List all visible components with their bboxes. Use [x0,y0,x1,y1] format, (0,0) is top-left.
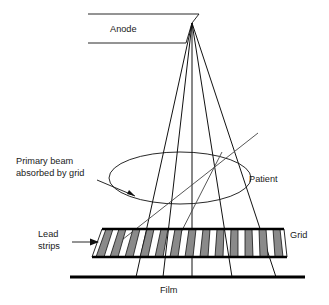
lead-strip [245,229,253,257]
diagram-canvas: Anode Patient [0,0,329,305]
primary-beam-label-line2: absorbed by grid [16,168,84,178]
lead-strip [170,229,182,257]
primary-beam-arrow-head [127,190,135,196]
lead-strip [110,229,126,257]
lead-strip [140,229,154,257]
patient-label: Patient [249,174,278,184]
lead-strips-arrow-head [90,239,99,246]
primary-beam-leader [97,180,135,196]
lead-strip [125,229,140,257]
lead-strip [215,229,224,257]
lead-strips-label-line2: strips [38,241,60,251]
xray-grid-diagram: Anode Patient [0,0,329,305]
lead-strips-leader [72,239,99,246]
lead-strip [185,229,196,257]
anode-bottom-edge [88,23,192,43]
film-label: Film [160,285,178,295]
primary-beam-label-line1: Primary beam [16,156,74,166]
lead-strip [273,229,283,257]
lead-strips-label-line1: Lead [38,229,58,239]
anode-top-edge [88,14,199,23]
patient-ellipse [109,152,251,204]
lead-strip [230,229,238,257]
grid-assembly [92,229,287,257]
lead-strips-group [96,229,283,257]
grid-label: Grid [290,230,307,240]
lead-strip [96,229,113,257]
lead-strip [200,229,210,257]
grid-right-edge [284,229,287,257]
anode-shape [88,14,199,43]
ray-4 [192,23,232,277]
anode-label: Anode [110,24,137,34]
lead-strip [259,229,268,257]
